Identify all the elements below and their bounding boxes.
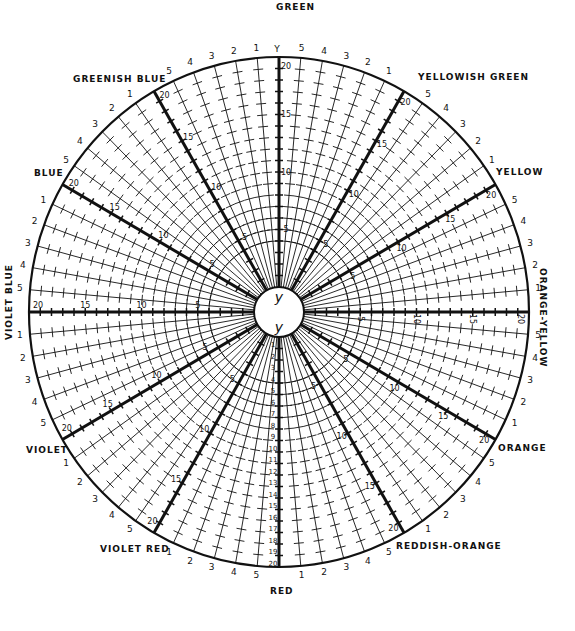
scale-tick (182, 375, 188, 383)
scale-tick (433, 443, 439, 451)
scale-tick (290, 497, 300, 498)
scale-tick (191, 247, 197, 255)
scale-tick (162, 211, 168, 219)
scale-tick (285, 440, 295, 441)
hue-label-blue: BLUE (34, 168, 64, 178)
scale-tick (102, 159, 108, 167)
scale-tick (173, 234, 179, 242)
axis-scale-label: 20 (159, 91, 169, 100)
scale-tick (390, 211, 396, 219)
scale-tick (175, 298, 176, 308)
scale-tick (352, 254, 358, 262)
scale-tick (450, 457, 456, 465)
scale-tick (407, 214, 413, 222)
scale-tick (136, 208, 142, 216)
scale-tick (432, 381, 436, 390)
axis-scale-label: 10 (349, 190, 359, 199)
scale-tick (175, 316, 176, 326)
scale-tick (132, 239, 136, 248)
scale-tick (110, 450, 116, 458)
scale-tick (371, 100, 380, 104)
scale-tick (380, 234, 386, 242)
scale-tick (493, 410, 497, 419)
red-axis-scale-label: 2 (271, 353, 275, 361)
scale-tick (190, 433, 198, 439)
scale-tick (130, 320, 131, 330)
scale-tick (182, 241, 188, 249)
scale-tick (382, 298, 383, 308)
sector-number: 4 (520, 216, 526, 226)
axis-scale-label: 15 (110, 203, 120, 212)
scale-tick (414, 140, 422, 146)
scale-tick (136, 189, 142, 197)
axis-scale-label: 15 (183, 133, 193, 142)
scale-tick (341, 405, 349, 411)
scale-tick (416, 295, 417, 305)
scale-tick (352, 478, 361, 482)
hue-label-yellow: YELLOW (496, 167, 543, 177)
scale-tick (361, 347, 365, 356)
axis-scale-label: 5 (350, 272, 355, 281)
scale-tick (516, 328, 517, 338)
sector-number: 2 (443, 510, 449, 520)
scale-tick (380, 157, 388, 163)
scale-tick (426, 201, 432, 209)
sector-number: 3 (209, 51, 215, 61)
scale-tick (398, 203, 404, 211)
scale-tick (145, 420, 151, 428)
scale-tick (71, 209, 75, 218)
scale-tick (197, 141, 206, 145)
sector-number: 2 (20, 353, 26, 363)
scale-tick (74, 325, 75, 335)
scale-tick (414, 478, 422, 484)
scale-tick (151, 157, 159, 163)
scale-tick (385, 175, 393, 181)
sector-number: 3 (343, 51, 349, 61)
sector-number: 3 (460, 494, 466, 504)
scale-tick (505, 287, 506, 297)
scale-tick (162, 362, 166, 371)
sector-number: 1 (299, 570, 305, 580)
scale-tick (183, 110, 192, 114)
sector-number: 5 (40, 418, 46, 428)
scale-tick (61, 205, 65, 214)
scale-tick (341, 213, 349, 219)
scale-tick (132, 376, 136, 385)
scale-tick (385, 442, 393, 448)
scale-tick (129, 487, 137, 493)
axis-scale-label: 5 (242, 233, 247, 242)
scale-tick (429, 495, 437, 501)
scale-tick (323, 416, 332, 420)
scale-tick (258, 126, 268, 127)
scale-tick (178, 100, 187, 104)
sector-number: 1 (386, 66, 392, 76)
scale-tick (347, 152, 356, 156)
scale-tick (145, 196, 151, 204)
scale-tick (427, 320, 428, 330)
scale-tick (483, 325, 484, 335)
scale-tick (261, 161, 271, 162)
sector-number: 5 (253, 570, 259, 580)
scale-tick (435, 421, 441, 429)
axis-scale-label: 10 (199, 425, 209, 434)
sector-number: 1 (40, 195, 46, 205)
sector-number: 4 (20, 260, 26, 270)
axis-scale-label: 15 (365, 482, 375, 491)
scale-tick (209, 213, 217, 219)
scale-tick (253, 69, 263, 70)
axis-scale-label: 15 (80, 301, 90, 310)
axis-scale-label: 10 (396, 244, 406, 253)
scale-tick (355, 240, 361, 248)
axis-scale-label: 5 (210, 260, 215, 269)
axis-scale-label: 20 (486, 191, 496, 200)
scale-tick (145, 401, 151, 409)
red-axis-scale-label: 14 (269, 491, 278, 499)
sector-number: 3 (527, 375, 533, 385)
scale-tick (370, 375, 376, 383)
scale-tick (165, 175, 173, 181)
sector-number: 1 (489, 155, 495, 165)
center-mark-top: y (274, 289, 284, 305)
scale-tick (117, 195, 123, 203)
scale-tick (337, 173, 346, 177)
scale-tick (127, 415, 133, 423)
